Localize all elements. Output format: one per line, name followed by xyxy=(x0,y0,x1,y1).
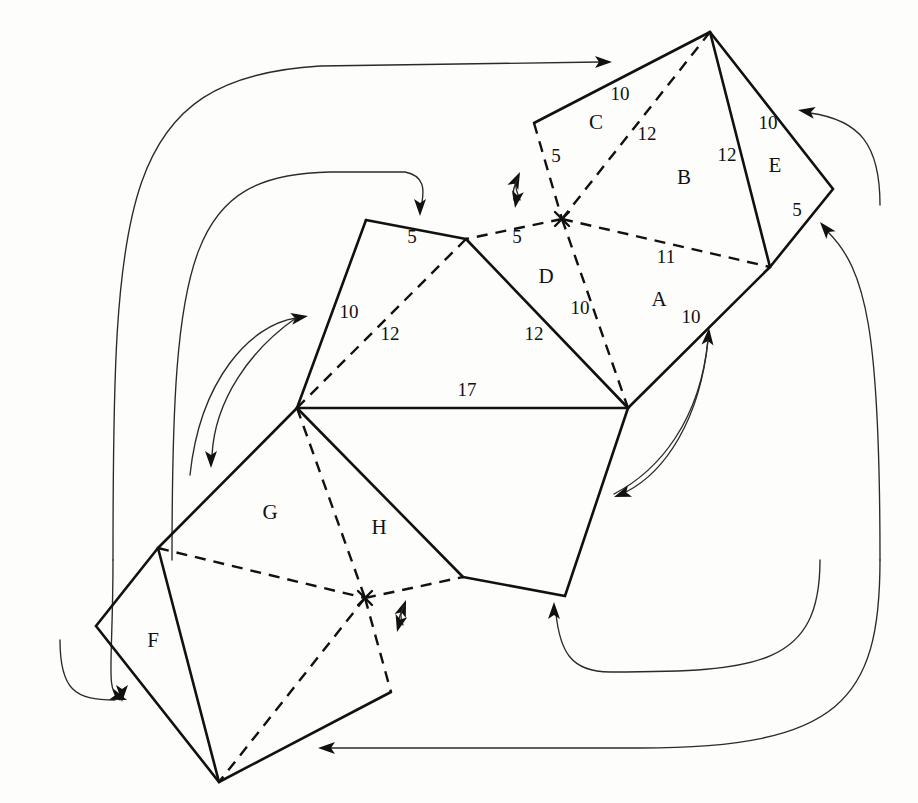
edge-length-label: 5 xyxy=(551,145,561,166)
flow-arrow xyxy=(60,640,129,706)
flow-arrow xyxy=(612,340,708,503)
arrow-head-icon xyxy=(507,169,525,189)
flow-arrow xyxy=(797,104,880,205)
polygon-solid-edge xyxy=(463,408,628,596)
flow-arrow-curve xyxy=(828,232,880,560)
flow-arrow-curve xyxy=(190,318,296,475)
polygon-unfolding-figure: 10125121051151010510121217 ABCDEFGH xyxy=(0,0,918,803)
flow-arrow-curve xyxy=(556,560,820,672)
polygon-dashed-edge xyxy=(219,598,365,782)
edge-length-label: 11 xyxy=(657,246,675,267)
face-label-g: G xyxy=(262,500,277,524)
polygon-solid-edge xyxy=(158,548,219,782)
polygon-solid-edge xyxy=(297,408,463,577)
flow-arrow xyxy=(614,327,715,494)
edge-length-label: 5 xyxy=(407,226,417,247)
polygon-solid-edge xyxy=(96,548,391,782)
edge-length-label: 12 xyxy=(525,323,544,344)
edge-length-label: 10 xyxy=(682,306,701,327)
polygon-dashed-edge xyxy=(365,598,391,692)
edge-length-label: 17 xyxy=(458,379,477,400)
arrow-head-icon xyxy=(414,199,426,216)
edge-length-label: 12 xyxy=(718,144,737,165)
flow-arrow-curve xyxy=(111,560,120,700)
face-label-c: C xyxy=(589,110,603,134)
flow-arrow-curve xyxy=(614,340,708,494)
flow-arrow-curve xyxy=(60,640,115,700)
flow-arrow-layer xyxy=(60,56,880,754)
edge-length-label: 5 xyxy=(792,199,802,220)
polygon-solid-edge xyxy=(534,32,710,123)
flow-arrow xyxy=(111,560,128,702)
polygon-solid-edge xyxy=(158,408,297,548)
edge-length-label: 10 xyxy=(759,112,778,133)
polygon-dashed-edge xyxy=(365,577,463,598)
flow-arrow-curve xyxy=(810,113,880,205)
polygon-dashed-edge xyxy=(158,548,365,598)
figure-canvas: 10125121051151010510121217 ABCDEFGH xyxy=(0,0,918,803)
edge-length-label: 12 xyxy=(381,323,400,344)
arrow-head-icon xyxy=(548,602,560,619)
flow-arrow xyxy=(815,218,880,560)
face-label-h: H xyxy=(371,515,386,539)
edge-length-label: 10 xyxy=(340,301,359,322)
arrow-head-icon xyxy=(290,310,309,325)
flow-arrow-curve xyxy=(172,172,423,560)
arrow-head-icon xyxy=(205,451,217,468)
face-label-b: B xyxy=(677,165,691,189)
face-label-f: F xyxy=(147,628,159,652)
flow-arrow-curve xyxy=(212,318,296,455)
polygon-dashed-edge xyxy=(297,408,365,598)
edge-length-label: 12 xyxy=(638,123,657,144)
flow-arrow xyxy=(190,310,309,475)
edge-length-label: 10 xyxy=(611,83,630,104)
face-label-d: D xyxy=(538,264,553,288)
face-label-e: E xyxy=(769,153,782,177)
polygon-dashed-edge xyxy=(562,32,710,219)
edge-length-label: 5 xyxy=(512,226,522,247)
flow-arrow xyxy=(548,560,820,672)
flow-arrow-curve xyxy=(626,340,708,492)
edge-length-label: 10 xyxy=(571,297,590,318)
polygon-dashed-edge xyxy=(534,123,562,219)
face-label-a: A xyxy=(651,287,667,311)
arrow-head-icon xyxy=(797,104,816,119)
arrow-head-icon xyxy=(509,190,524,209)
